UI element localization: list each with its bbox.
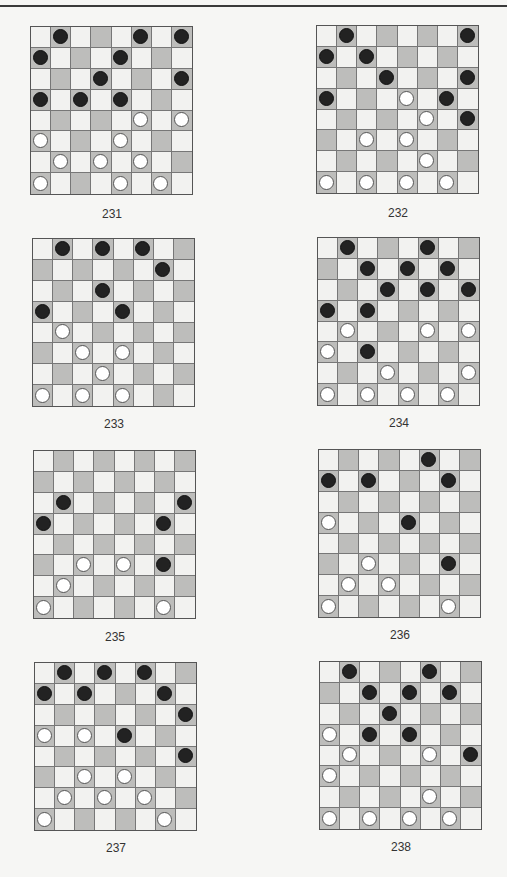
board-square bbox=[377, 172, 397, 193]
white-piece-icon bbox=[322, 811, 337, 826]
board-square bbox=[400, 554, 420, 575]
white-piece-icon bbox=[340, 323, 355, 338]
board-square bbox=[53, 323, 73, 344]
board-square bbox=[398, 130, 418, 151]
board-square bbox=[377, 130, 397, 151]
board-square bbox=[53, 302, 73, 323]
board-square bbox=[378, 259, 398, 280]
black-piece-icon bbox=[95, 283, 110, 298]
board-square bbox=[337, 172, 357, 193]
board-square bbox=[134, 343, 154, 364]
board-square bbox=[458, 47, 478, 68]
black-piece-icon bbox=[115, 304, 130, 319]
white-piece-icon bbox=[361, 556, 376, 571]
board-square bbox=[154, 281, 174, 302]
board-square bbox=[54, 451, 74, 472]
board-square bbox=[439, 322, 459, 343]
black-piece-icon bbox=[33, 92, 48, 107]
board-square bbox=[176, 684, 196, 705]
white-piece-icon bbox=[93, 154, 108, 169]
board-square bbox=[337, 68, 357, 89]
board-square bbox=[317, 89, 337, 110]
board-square bbox=[136, 747, 156, 768]
black-piece-icon bbox=[113, 92, 128, 107]
board-square bbox=[74, 597, 94, 618]
board-square bbox=[421, 704, 441, 725]
board-square bbox=[378, 342, 398, 363]
board-square bbox=[339, 492, 359, 513]
board-square bbox=[378, 363, 398, 384]
board-square bbox=[438, 47, 458, 68]
board-square bbox=[439, 238, 459, 259]
board-square bbox=[339, 575, 359, 596]
board-square bbox=[320, 746, 340, 767]
board-square bbox=[114, 302, 134, 323]
board-square bbox=[461, 766, 481, 787]
board-square bbox=[400, 450, 420, 471]
diagram-number: 236 bbox=[318, 628, 482, 642]
board-square bbox=[419, 301, 439, 322]
board-square bbox=[340, 787, 360, 808]
checkers-board bbox=[317, 237, 480, 406]
white-piece-icon bbox=[116, 557, 131, 572]
board-square bbox=[152, 27, 172, 48]
board-square bbox=[135, 576, 155, 597]
black-piece-icon bbox=[402, 685, 417, 700]
board-square bbox=[419, 280, 439, 301]
board-square bbox=[74, 493, 94, 514]
board-square bbox=[54, 472, 74, 493]
board-square bbox=[340, 683, 360, 704]
board-square bbox=[172, 152, 192, 173]
board-square bbox=[398, 26, 418, 47]
board-square bbox=[91, 69, 111, 90]
black-piece-icon bbox=[401, 515, 416, 530]
board-square bbox=[73, 302, 93, 323]
white-piece-icon bbox=[320, 344, 335, 359]
board-square bbox=[155, 493, 175, 514]
board-square bbox=[380, 704, 400, 725]
board-square bbox=[320, 662, 340, 683]
white-piece-icon bbox=[33, 133, 48, 148]
board-square bbox=[176, 747, 196, 768]
board-square bbox=[154, 302, 174, 323]
board-square bbox=[339, 450, 359, 471]
board-square bbox=[379, 492, 399, 513]
black-piece-icon bbox=[97, 665, 112, 680]
board-square bbox=[441, 746, 461, 767]
board-square bbox=[357, 110, 377, 131]
diagram-238 bbox=[319, 661, 483, 830]
board-square bbox=[339, 534, 359, 555]
board-square bbox=[319, 534, 339, 555]
black-piece-icon bbox=[117, 728, 132, 743]
board-square bbox=[420, 575, 440, 596]
board-square bbox=[172, 111, 192, 132]
white-piece-icon bbox=[419, 153, 434, 168]
black-piece-icon bbox=[340, 240, 355, 255]
board-square bbox=[54, 493, 74, 514]
board-square bbox=[438, 130, 458, 151]
board-square bbox=[418, 68, 438, 89]
board-square bbox=[459, 342, 479, 363]
board-square bbox=[154, 385, 174, 406]
board-square bbox=[461, 787, 481, 808]
board-square bbox=[319, 450, 339, 471]
white-piece-icon bbox=[53, 154, 68, 169]
checkers-board bbox=[319, 661, 482, 830]
board-square bbox=[357, 68, 377, 89]
white-piece-icon bbox=[56, 578, 71, 593]
board-square bbox=[380, 725, 400, 746]
board-square bbox=[112, 152, 132, 173]
board-square bbox=[172, 27, 192, 48]
board-square bbox=[317, 172, 337, 193]
board-square bbox=[94, 514, 114, 535]
board-square bbox=[460, 471, 480, 492]
black-piece-icon bbox=[440, 261, 455, 276]
board-square bbox=[71, 131, 91, 152]
black-piece-icon bbox=[400, 261, 415, 276]
diagram-231 bbox=[30, 26, 194, 195]
white-piece-icon bbox=[320, 387, 335, 402]
board-square bbox=[319, 554, 339, 575]
board-square bbox=[94, 472, 114, 493]
board-square bbox=[93, 343, 113, 364]
board-square bbox=[95, 788, 115, 809]
